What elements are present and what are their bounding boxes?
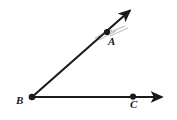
ray-ba — [32, 11, 130, 98]
geometry-canvas — [0, 0, 177, 120]
point-c-label: C — [130, 99, 137, 110]
ray-ba-line — [32, 11, 130, 98]
geometry-figure: A B C — [0, 0, 177, 120]
point-b-dot — [29, 94, 36, 101]
point-a-label: A — [108, 36, 115, 47]
point-b-label: B — [16, 95, 23, 106]
